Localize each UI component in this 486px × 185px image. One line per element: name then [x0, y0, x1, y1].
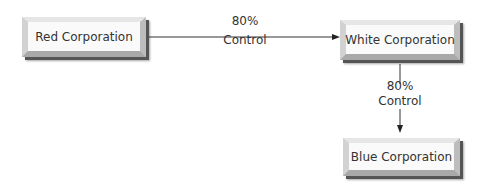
node-label: White Corporation [346, 25, 454, 54]
edge-label-white-blue: 80% Control [365, 79, 435, 109]
edge-label-red-white: 80% Control [210, 14, 280, 48]
node-label: Red Corporation [28, 22, 140, 51]
node-white-corporation: White Corporation [340, 20, 460, 60]
node-red-corporation: Red Corporation [22, 17, 146, 57]
edge-relation: Control [210, 33, 280, 48]
edge-percent: 80% [210, 14, 280, 29]
node-label: Blue Corporation [349, 143, 454, 170]
node-blue-corporation: Blue Corporation [343, 138, 460, 176]
edge-percent: 80% [365, 79, 435, 94]
edge-relation: Control [365, 94, 435, 109]
